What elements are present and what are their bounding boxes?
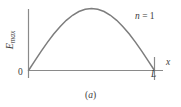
- y-axis-label-main: E: [4, 43, 15, 49]
- x-axis-tick-label-L: L: [151, 70, 156, 80]
- x-axis-label: x: [166, 58, 170, 68]
- figure-caption: (a): [0, 90, 181, 100]
- mode-value: 1: [150, 11, 155, 21]
- y-axis-label: Emax: [3, 17, 17, 63]
- origin-label: 0: [18, 68, 23, 78]
- figure-panel: Emax 0 n = 1 L x (a): [0, 0, 181, 107]
- mode-equals-sign: =: [140, 11, 150, 21]
- y-axis-label-subscript: max: [8, 31, 17, 44]
- mode-number-annotation: n = 1: [135, 12, 155, 22]
- caption-close-paren: ): [93, 90, 96, 100]
